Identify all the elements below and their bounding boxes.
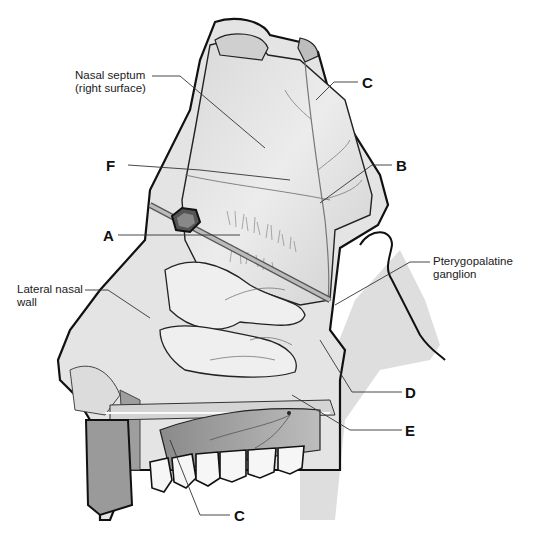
label-lateral-nasal-wall: Lateral nasal wall: [17, 283, 83, 309]
label-letter-a: A: [103, 228, 114, 243]
label-nasal-septum: Nasal septum (right surface): [75, 69, 146, 95]
label-letter-c-bottom: C: [234, 508, 245, 523]
label-letter-f: F: [106, 158, 115, 173]
label-letter-b: B: [396, 158, 407, 173]
label-pterygopalatine-ganglion: Pterygopalatine ganglion: [433, 255, 513, 281]
label-letter-e: E: [405, 423, 415, 438]
label-letter-c-top: C: [362, 75, 373, 90]
label-letter-d: D: [405, 385, 416, 400]
